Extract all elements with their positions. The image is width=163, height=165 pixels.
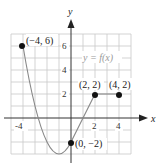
y-tick-4: 4 xyxy=(62,65,67,75)
x-axis-label: x xyxy=(150,113,156,124)
y-tick-6: 6 xyxy=(62,41,67,51)
x-tick-4: 4 xyxy=(116,121,121,131)
x-axis-arrow-icon xyxy=(139,115,148,122)
y-axis-label: y xyxy=(67,6,73,17)
y-tick-2: 2 xyxy=(62,89,67,99)
point-4-2 xyxy=(116,92,122,98)
label-0-neg2: (0, −2) xyxy=(75,138,102,150)
label-2-2: (2, 2) xyxy=(79,79,101,91)
x-tick-neg4: -4 xyxy=(15,121,23,131)
point-2-2 xyxy=(92,92,98,98)
label-neg4-6: (−4, 6) xyxy=(26,35,53,47)
label-4-2: (4, 2) xyxy=(109,79,131,91)
point-0-neg2 xyxy=(68,140,74,146)
function-label: y = f(x) xyxy=(82,52,114,64)
y-axis-arrow-icon xyxy=(68,19,75,28)
function-graph: x y -4 2 4 6 4 2 y = f(x) (−4, 6) (0, −2… xyxy=(0,0,163,165)
point-neg4-6 xyxy=(19,43,25,49)
x-tick-2: 2 xyxy=(92,121,97,131)
